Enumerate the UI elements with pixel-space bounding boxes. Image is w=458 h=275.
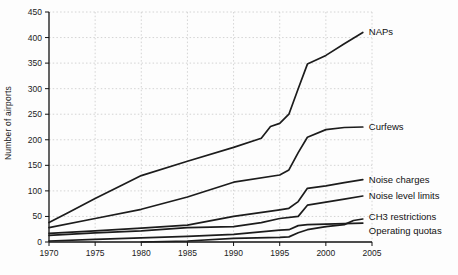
y-tick-label: 450 [28,7,42,17]
x-tick-label: 1975 [86,248,105,258]
series-label-ch3-restrictions: CH3 restrictions [369,211,437,222]
series-line-naps [49,32,363,222]
line-chart-figure: Number of airports 050100150200250300350… [0,0,458,275]
y-tick-label: 100 [28,186,42,196]
x-tick-label: 1985 [178,248,197,258]
y-tick-label: 350 [28,58,42,68]
x-tick-label: 1970 [40,248,59,258]
y-tick-label: 300 [28,84,42,94]
y-tick-label: 0 [37,237,42,247]
series-label-operating-quotas: Operating quotas [369,225,442,236]
y-tick-label: 200 [28,135,42,145]
series-label-curfews: Curfews [369,121,404,132]
x-tick-label: 1980 [132,248,151,258]
series-label-noise-charges: Noise charges [369,174,430,185]
y-tick-label: 400 [28,33,42,43]
series-label-naps: NAPs [369,26,394,37]
series-line-noise-level-limits [49,196,363,235]
x-tick-label: 1995 [270,248,289,258]
series-label-noise-level-limits: Noise level limits [369,190,440,201]
airport-noise-measures-chart: 0501001502002503003504004501970197519801… [0,0,458,275]
x-tick-label: 1990 [224,248,243,258]
series-line-ch3-restrictions [141,219,362,242]
y-tick-label: 150 [28,160,42,170]
series-line-curfews [49,127,363,228]
x-tick-label: 2000 [316,248,335,258]
x-tick-label: 2005 [363,248,382,258]
y-tick-label: 50 [33,211,43,221]
y-tick-label: 250 [28,109,42,119]
series-line-noise-charges [49,180,363,234]
